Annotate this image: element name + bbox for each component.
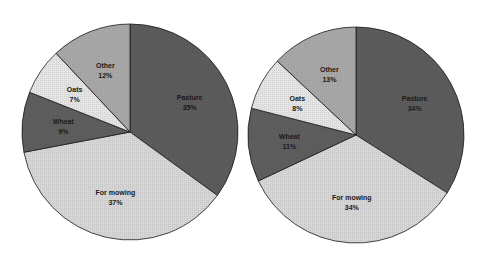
- pie-charts: Pasture35%For mowing37%Wheat9%Oats7%Othe…: [0, 0, 487, 261]
- slice-percent-label: 12%: [98, 72, 113, 79]
- slice-category-label: Pasture: [402, 95, 428, 102]
- slice-category-label: Oats: [290, 95, 306, 102]
- slice-category-label: Wheat: [279, 133, 301, 140]
- slice-percent-label: 11%: [283, 143, 297, 150]
- slice-category-label: Other: [96, 62, 115, 69]
- slice-category-label: Oats: [67, 86, 83, 93]
- slice-percent-label: 9%: [58, 128, 69, 135]
- slice-percent-label: 34%: [408, 105, 423, 112]
- slice-category-label: Wheat: [53, 118, 75, 125]
- pie-chart-right: Pasture34%For mowing34%Wheat11%Oats8%Oth…: [248, 27, 464, 243]
- slice-percent-label: 34%: [345, 204, 360, 211]
- slice-percent-label: 37%: [108, 199, 123, 206]
- slice-percent-label: 7%: [70, 96, 81, 103]
- slice-category-label: For mowing: [96, 189, 136, 197]
- slice-percent-label: 8%: [292, 105, 303, 112]
- slice-percent-label: 13%: [322, 76, 337, 83]
- slice-percent-label: 35%: [183, 104, 198, 111]
- slice-category-label: For mowing: [332, 194, 372, 202]
- slice-category-label: Pasture: [177, 94, 203, 101]
- pie-chart-left: Pasture35%For mowing37%Wheat9%Oats7%Othe…: [22, 24, 238, 240]
- slice-category-label: Other: [320, 66, 339, 73]
